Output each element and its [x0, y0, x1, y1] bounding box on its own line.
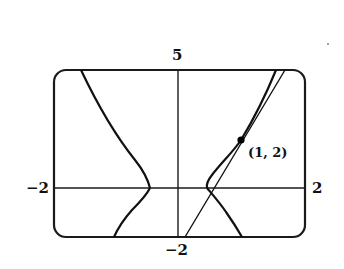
ymin-label: −2 [165, 243, 188, 258]
scan-artifact-dot [327, 43, 329, 45]
curve-right-upper-branch [207, 70, 276, 188]
point-label: (1, 2) [248, 146, 287, 159]
graph-figure: 5 −2 −2 2 (1, 2) [0, 0, 344, 269]
tangent-point-marker [237, 136, 244, 143]
curve-right-lower-branch [207, 188, 242, 237]
ymax-label: 5 [172, 48, 182, 63]
xmin-label: −2 [26, 181, 49, 196]
curve-left-upper-branch [81, 70, 150, 188]
xmax-label: 2 [312, 181, 322, 196]
curve-left-lower-branch [114, 188, 150, 237]
graph-canvas [0, 0, 344, 269]
